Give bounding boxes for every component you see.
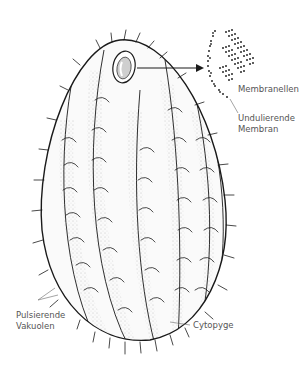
label-membranellen: Membranellen: [238, 84, 299, 95]
cell-body: [32, 30, 236, 354]
label-cytopyge: Cytopyge: [193, 320, 234, 331]
label-undulierende-membran: Undulierende Membran: [238, 113, 295, 134]
label-pulsierende-vakuolen: Pulsierende Vakuolen: [16, 310, 65, 331]
